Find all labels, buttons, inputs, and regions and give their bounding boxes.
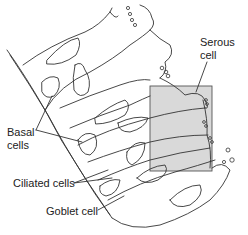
label-basal-line2: cells (7, 139, 35, 152)
label-basal-cells: Basal cells (7, 126, 35, 152)
cell-outline (45, 5, 154, 110)
cell-outline (70, 96, 150, 128)
cell-outline (150, 30, 172, 78)
highlight-box (150, 86, 212, 171)
nucleus (47, 38, 80, 64)
nucleus (78, 133, 97, 155)
leader-basal-2 (36, 130, 82, 142)
nucleus (100, 180, 120, 196)
label-serous-line2: cell (200, 49, 235, 62)
label-ciliated-cells: Ciliated cells (13, 177, 75, 190)
cell-outline (23, 8, 118, 65)
label-serous-cell: Serous cell (200, 36, 235, 62)
label-basal-line1: Basal (7, 126, 35, 139)
label-goblet-cell: Goblet cell (46, 205, 98, 218)
nucleus (170, 185, 201, 207)
cell-outline (112, 164, 230, 227)
leader-basal-1 (36, 96, 52, 130)
label-serous-line1: Serous (200, 36, 235, 49)
